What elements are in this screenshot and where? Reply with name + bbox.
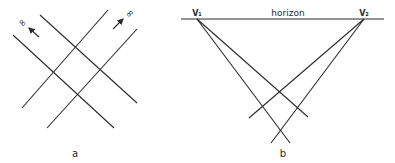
arrow-left-icon [29, 28, 39, 37]
horizon-label: horizon [271, 8, 304, 18]
converging-line-b4 [271, 19, 364, 143]
panel-b-label: b [280, 148, 286, 159]
arrow-right-icon [113, 19, 123, 29]
panel-a-label: a [72, 148, 78, 159]
panel-a: ∞ ∞ a [13, 7, 137, 159]
converging-line-b2 [197, 19, 308, 117]
infinity-left-label: ∞ [16, 16, 30, 30]
converging-line-b3 [249, 19, 364, 118]
panel-b: horizon V₁ V₂ b [181, 8, 384, 159]
converging-line-b1 [197, 19, 290, 143]
parallel-line-a1 [13, 35, 114, 128]
infinity-right-label: ∞ [123, 7, 137, 21]
perspective-diagram: ∞ ∞ a horizon V₁ V₂ b [0, 0, 395, 163]
vanishing-point-1-label: V₁ [192, 9, 202, 18]
parallel-line-a2 [40, 15, 137, 103]
vanishing-point-2-label: V₂ [359, 9, 369, 18]
parallel-line-a3 [22, 10, 108, 108]
